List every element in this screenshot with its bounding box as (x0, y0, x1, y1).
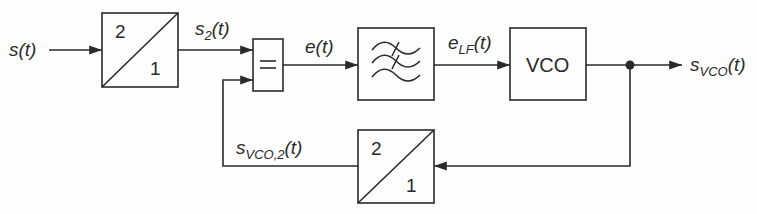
diagram-lines (0, 0, 757, 214)
filter-block (358, 28, 434, 100)
label-s2: s2(t) (195, 19, 230, 42)
comparator-block (253, 39, 283, 91)
label-error: e(t) (305, 37, 334, 56)
divider-fb-top: 2 (371, 139, 382, 158)
label-feedback: sVCO,2(t) (236, 138, 302, 161)
divider-in-top: 2 (115, 22, 126, 41)
pll-block-diagram: s(t) s2(t) e(t) eLF(t) sVCO(t) sVCO,2(t)… (0, 0, 757, 214)
divider-fb-bottom: 1 (406, 176, 417, 195)
label-output: sVCO(t) (690, 55, 746, 78)
junction-dot (626, 61, 635, 70)
label-e-lf: eLF(t) (448, 33, 492, 56)
divider-in-bottom: 1 (150, 59, 161, 78)
vco-label: VCO (526, 55, 569, 75)
label-input-signal: s(t) (9, 40, 36, 59)
